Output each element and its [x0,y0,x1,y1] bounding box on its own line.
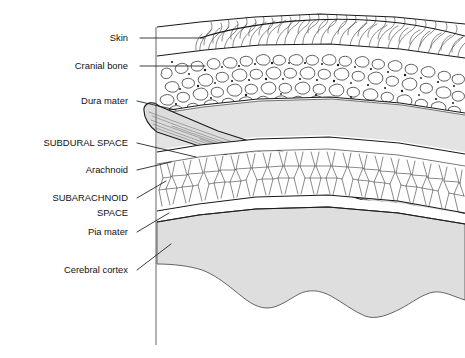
anatomical-diagram: Skin Cranial bone Dura mater SUBDURAL SP… [0,0,465,358]
cerebral-cortex-body [157,207,465,317]
label-pia-mater: Pia mater [88,226,128,237]
label-cranial-bone: Cranial bone [75,60,128,71]
label-arachnoid: Arachnoid [86,164,128,175]
label-cerebral-cortex: Cerebral cortex [64,264,128,275]
label-space: SPACE [97,207,128,218]
label-subdural-space: SUBDURAL SPACE [44,137,128,148]
cerebral-cortex-layer [157,207,465,317]
meninges-figure: Skin Cranial bone Dura mater SUBDURAL SP… [0,0,465,358]
label-skin: Skin [110,32,128,43]
label-group: Skin Cranial bone Dura mater SUBDURAL SP… [44,32,129,275]
label-dura-mater: Dura mater [81,95,128,106]
label-subarachnoid: SUBARACHNOID [52,192,128,203]
